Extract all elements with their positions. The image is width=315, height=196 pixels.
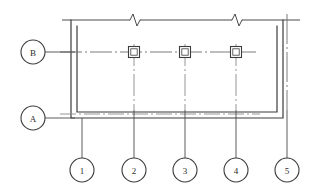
grid-bubble-B[interactable]: B: [21, 40, 75, 64]
grid-bubble-1-label: 1: [80, 166, 85, 176]
grid-bubble-2[interactable]: 2: [122, 158, 146, 182]
outer-wall-line: [71, 20, 283, 118]
vertical-grid-bubbles: 1 2 3 4 5: [70, 158, 299, 182]
grid-bubble-4[interactable]: 4: [224, 158, 248, 182]
vertical-grid-leaders: [82, 14, 287, 158]
grid-bubble-A-label: A: [30, 114, 37, 124]
grid-bubble-5-label: 5: [285, 166, 290, 176]
building-walls: [62, 20, 300, 118]
break-symbol-left-icon: [130, 14, 140, 26]
column-2-B[interactable]: [129, 47, 140, 58]
grid-bubble-B-label: B: [30, 48, 36, 58]
horizontal-grid-bubbles: B A: [21, 40, 75, 130]
column-4-B[interactable]: [231, 47, 242, 58]
inner-wall-line: [77, 26, 277, 112]
grid-bubble-A[interactable]: A: [21, 106, 75, 130]
floor-plan-drawing: B A 1 2 3: [0, 0, 315, 196]
plan-canvas: B A 1 2 3: [0, 0, 315, 196]
grid-bubble-3-label: 3: [183, 166, 188, 176]
grid-bubble-2-label: 2: [132, 166, 137, 176]
grid-bubble-3[interactable]: 3: [173, 158, 197, 182]
grid-bubble-1[interactable]: 1: [70, 158, 94, 182]
grid-bubble-5[interactable]: 5: [275, 158, 299, 182]
horizontal-centerlines: [60, 52, 260, 114]
column-symbol-inner: [131, 49, 137, 55]
break-symbol-right-icon: [232, 14, 242, 26]
column-3-B[interactable]: [180, 47, 191, 58]
column-symbol-inner: [233, 49, 239, 55]
grid-bubble-4-label: 4: [234, 166, 239, 176]
column-symbol-inner: [182, 49, 188, 55]
